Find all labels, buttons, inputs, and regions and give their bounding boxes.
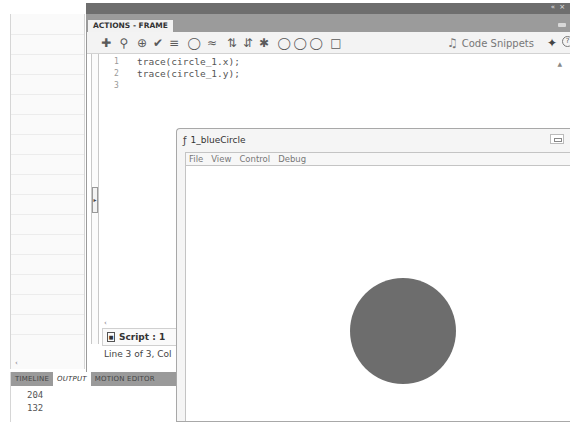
code-snippets-button[interactable]: ♫ Code Snippets: [447, 35, 534, 51]
code-line: 1 trace(circle_1.x);: [105, 56, 560, 68]
expand-all-icon[interactable]: ✱: [257, 36, 271, 50]
code-snippets-label: Code Snippets: [462, 38, 534, 49]
collapse-between-braces-icon[interactable]: ⇅: [225, 36, 239, 50]
layers-column: ‹: [10, 14, 85, 369]
flash-player-window: ƒ 1_blueCircle File View Control Debug: [176, 128, 570, 422]
code-line: 2 trace(circle_1.y);: [105, 68, 560, 80]
tab-actions-frame[interactable]: ACTIONS - FRAME: [87, 19, 174, 32]
flash-player-icon: ƒ: [183, 135, 187, 146]
code-text: trace(circle_1.y);: [127, 68, 240, 80]
remove-comment-icon[interactable]: ◯: [309, 36, 323, 50]
auto-format-icon[interactable]: ≡: [167, 36, 181, 50]
flash-ide: « × ‹ ACTIONS - FRAME ✚ ⚲ ⊕ ✔ ≡ ◯ ≈ ⇅ ⇵ …: [0, 0, 570, 422]
player-titlebar[interactable]: ƒ 1_blueCircle: [177, 129, 570, 151]
insert-target-path-icon[interactable]: ⊕: [135, 36, 149, 50]
script-assist-icon[interactable]: ✦: [547, 36, 557, 50]
window-controls[interactable]: « ×: [551, 3, 566, 11]
code-line: 3: [105, 80, 560, 92]
add-statement-icon[interactable]: ✚: [99, 36, 113, 50]
scroll-left-arrow-icon[interactable]: ‹: [104, 319, 107, 327]
player-title: 1_blueCircle: [191, 135, 246, 145]
cursor-status: Line 3 of 3, Col: [104, 349, 171, 359]
tab-motion-editor[interactable]: MOTION EDITOR: [91, 372, 159, 386]
output-text: 204 132: [27, 389, 43, 415]
player-stage: [185, 166, 570, 421]
show-hide-toolbox-icon[interactable]: □: [329, 36, 343, 50]
blue-circle: [350, 278, 456, 384]
bottom-tabbar: TIMELINE OUTPUT MOTION EDITOR: [11, 372, 177, 386]
script-tab-label: Script : 1: [119, 332, 165, 342]
line-number: 1: [105, 56, 127, 68]
find-icon[interactable]: ⚲: [117, 36, 131, 50]
minimize-button[interactable]: [550, 134, 564, 144]
line-number: 2: [105, 68, 127, 80]
actions-tabbar: ACTIONS - FRAME: [87, 14, 570, 32]
collapse-selection-icon[interactable]: ⇵: [241, 36, 255, 50]
line-number: 3: [105, 80, 127, 92]
menu-view[interactable]: View: [211, 153, 231, 165]
top-strip: « ×: [0, 0, 570, 14]
code-snippets-icon: ♫: [447, 36, 458, 50]
bottom-panel: TIMELINE OUTPUT MOTION EDITOR 204 132: [10, 372, 176, 422]
panel-menu-icon[interactable]: [558, 23, 566, 27]
tab-output[interactable]: OUTPUT: [53, 372, 91, 386]
player-menubar: File View Control Debug: [185, 152, 570, 166]
menu-file[interactable]: File: [189, 153, 203, 165]
resize-arrow-icon[interactable]: ‹: [15, 359, 18, 367]
panel-header-bar: [86, 3, 570, 14]
help-icon[interactable]: ?: [562, 36, 570, 47]
check-syntax-icon[interactable]: ✔: [151, 36, 165, 50]
code-text: [127, 80, 137, 92]
actions-toolbar: ✚ ⚲ ⊕ ✔ ≡ ◯ ≈ ⇅ ⇵ ✱ ◯ ◯ ◯ □ ♫ Code Snipp…: [87, 32, 570, 54]
pin-script-icon[interactable]: ■: [107, 332, 115, 342]
debug-options-icon[interactable]: ≈: [205, 36, 219, 50]
script-tab[interactable]: ■ Script : 1: [102, 328, 178, 346]
output-line: 132: [27, 402, 43, 415]
tab-timeline[interactable]: TIMELINE: [11, 372, 53, 386]
apply-block-comment-icon[interactable]: ◯: [277, 36, 291, 50]
menu-debug[interactable]: Debug: [278, 153, 306, 165]
collapse-toolbox-handle[interactable]: ▸: [92, 187, 98, 213]
output-line: 204: [27, 389, 43, 402]
menu-control[interactable]: Control: [239, 153, 270, 165]
show-code-hint-icon[interactable]: ◯: [187, 36, 201, 50]
code-text: trace(circle_1.x);: [127, 56, 240, 68]
apply-line-comment-icon[interactable]: ◯: [293, 36, 307, 50]
